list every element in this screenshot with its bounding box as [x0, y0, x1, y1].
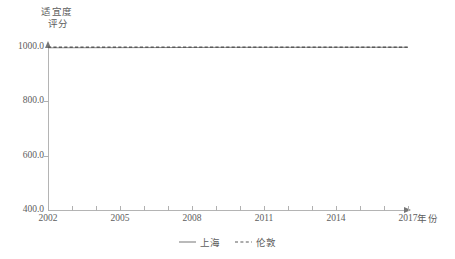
legend-item-label: 上海: [200, 235, 221, 249]
legend-line-swatch-solid: [179, 238, 196, 246]
series-plot-area: [0, 0, 455, 259]
legend-item-label: 伦敦: [256, 235, 277, 249]
y-axis-line: [48, 47, 49, 211]
x-axis-tick-label: 2002: [28, 213, 68, 223]
chart-legend: 上海伦敦: [0, 235, 455, 249]
x-axis-tick: [144, 206, 145, 211]
x-axis-tick-label: 2005: [100, 213, 140, 223]
y-axis-tick-label: 1000.0: [0, 41, 44, 51]
x-axis-line: [48, 210, 408, 211]
y-axis-tick: [44, 101, 49, 102]
legend-item-上海[interactable]: 上海: [179, 235, 221, 249]
y-axis-title-line1: 适宜度: [22, 6, 92, 18]
x-axis-tick: [408, 206, 409, 211]
x-axis-tick: [96, 206, 97, 211]
legend-line-swatch-dashed: [235, 238, 252, 246]
x-axis-tick: [336, 206, 337, 211]
series-line-上海: [48, 47, 408, 48]
legend-item-伦敦[interactable]: 伦敦: [235, 235, 277, 249]
x-axis-tick: [360, 206, 361, 211]
x-axis-tick: [288, 206, 289, 211]
y-axis-title: 适宜度 评分: [22, 6, 92, 30]
x-axis-tick-label: 2008: [172, 213, 212, 223]
x-axis-tick: [72, 206, 73, 211]
x-axis-tick: [192, 206, 193, 211]
y-axis-tick-label: 600.0: [0, 150, 44, 160]
x-axis-tick: [264, 206, 265, 211]
line-chart-figure: 适宜度 评分 1000.0800.0600.0400.0 20022005200…: [0, 0, 455, 259]
x-axis-title: 年份: [417, 211, 438, 225]
y-axis-tick: [44, 156, 49, 157]
y-axis-title-line2: 评分: [22, 18, 92, 30]
x-axis-tick: [240, 206, 241, 211]
y-axis-tick-label: 800.0: [0, 95, 44, 105]
x-axis-tick: [216, 206, 217, 211]
x-axis-tick: [384, 206, 385, 211]
x-axis-tick: [168, 206, 169, 211]
x-axis-tick-label: 2014: [316, 213, 356, 223]
x-axis-tick: [312, 206, 313, 211]
y-axis-arrow-icon: [45, 41, 51, 48]
x-axis-tick: [48, 206, 49, 211]
x-axis-tick: [120, 206, 121, 211]
x-axis-tick-label: 2011: [244, 213, 284, 223]
